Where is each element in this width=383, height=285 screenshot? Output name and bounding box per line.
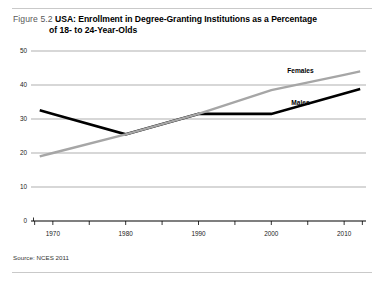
x-axis-labels: 19701980199020002010 xyxy=(46,230,352,237)
series-line-females xyxy=(40,71,360,156)
y-axis-tick-label: 50 xyxy=(20,47,28,54)
y-axis-tick-label: 0 xyxy=(23,217,27,224)
series-lines xyxy=(40,71,360,156)
source-note: Source: NCES 2011 xyxy=(13,254,69,261)
series-label-males: Males xyxy=(291,99,310,106)
y-axis-tick-label: 10 xyxy=(20,183,28,190)
line-chart: 01020304050 19701980199020002010 Females… xyxy=(0,0,383,285)
x-axis-tick-label: 1970 xyxy=(46,230,61,237)
bottom-divider xyxy=(12,272,372,273)
series-label-females: Females xyxy=(287,67,314,74)
gridlines xyxy=(31,51,366,221)
x-axis-tick-label: 1980 xyxy=(119,230,134,237)
y-axis-labels: 01020304050 xyxy=(20,47,28,224)
x-axis-tick-label: 2010 xyxy=(337,230,352,237)
x-axis-tick-label: 1990 xyxy=(191,230,206,237)
y-axis-tick-label: 30 xyxy=(20,115,28,122)
y-axis-tick-label: 20 xyxy=(20,149,28,156)
figure-container: Figure 5.2 USA: Enrollment in Degree-Gra… xyxy=(0,0,383,285)
y-axis-tick-label: 40 xyxy=(20,81,28,88)
x-axis-tick-label: 2000 xyxy=(264,230,279,237)
series-line-males xyxy=(40,89,360,134)
